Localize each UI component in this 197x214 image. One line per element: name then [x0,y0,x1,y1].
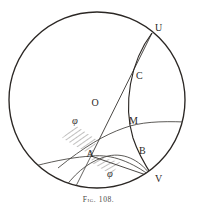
point-label-a: A [86,148,94,159]
geometry-figure: U C O M B V A φ φ [0,0,197,214]
point-label-v: V [155,173,163,184]
figure-container: U C O M B V A φ φ Fig. 108. [0,0,197,214]
point-label-o: O [91,97,98,108]
point-label-u: U [155,22,163,33]
line-u-a [91,33,152,156]
point-label-m: M [129,115,138,126]
figure-caption: Fig. 108. [0,195,197,204]
point-label-b: B [139,145,146,156]
line-a-southwest [75,156,91,188]
angle-label-phi-upper: φ [72,115,78,126]
point-label-c: C [136,70,143,81]
angle-label-phi-lower: φ [107,168,113,179]
